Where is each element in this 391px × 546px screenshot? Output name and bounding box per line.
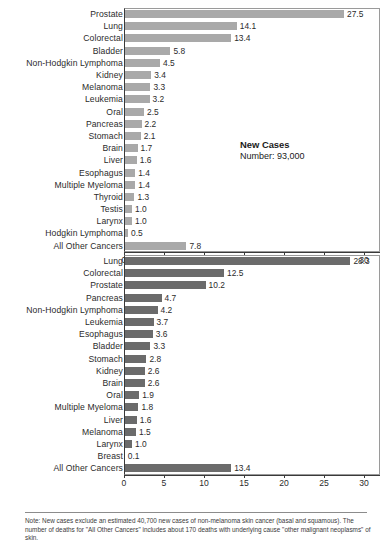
bar-category-label: All Other Cancers (53, 241, 123, 250)
bar-value-label: 2.8 (149, 354, 161, 362)
bar-row: Prostate10.2 (0, 279, 391, 291)
bar-category-label: Melanoma (82, 83, 123, 92)
bar-rows-new-cases: Prostate27.5Lung14.1Colorectal13.4Bladde… (0, 8, 391, 252)
bar-value-label: 1.9 (142, 391, 154, 399)
bar-row: Oral1.9 (0, 389, 391, 401)
bar-track: 28.3 (124, 255, 380, 267)
bar-category-label: Non-Hodgkin Lymphoma (26, 59, 123, 68)
bar (124, 330, 153, 338)
bar-category-label: Brain (102, 144, 123, 153)
bar (124, 34, 231, 42)
bar-value-label: 3.3 (153, 342, 165, 350)
bar (124, 95, 150, 103)
bar-value-label: 1.0 (135, 440, 147, 448)
bar-category-label: Kidney (96, 366, 123, 375)
bar-category-label: Multiple Myeloma (55, 403, 123, 412)
annotation-new-cases: New Cases Number: 93,000 (240, 139, 305, 162)
bar-track: 2.8 (124, 353, 380, 365)
x-axis-line (124, 252, 380, 253)
bar (124, 342, 150, 350)
bar-value-label: 1.4 (138, 181, 150, 189)
bar-category-label: Leukemia (85, 318, 123, 327)
bar-row: Colorectal12.5 (0, 267, 391, 279)
bar-value-label: 1.5 (139, 428, 151, 436)
bar-row: Prostate27.5 (0, 8, 391, 20)
bar-row: Larynx1.0 (0, 438, 391, 450)
bar-category-label: Colorectal (83, 269, 123, 278)
bar (124, 144, 138, 152)
bar-category-label: Lung (103, 257, 123, 266)
bar-track: 1.4 (124, 166, 380, 178)
bar (124, 269, 224, 277)
bar-category-label: Pancreas (86, 293, 123, 302)
bar (124, 242, 186, 250)
bar-track: 3.4 (124, 69, 380, 81)
bar (124, 391, 139, 399)
bar-value-label: 12.5 (227, 269, 243, 277)
bar (124, 440, 132, 448)
bar-track: 4.5 (124, 57, 380, 69)
bar-value-label: 14.1 (240, 22, 256, 30)
bar-category-label: Stomach (88, 354, 123, 363)
bar-row: Larynx1.0 (0, 215, 391, 227)
bar-value-label: 1.6 (140, 156, 152, 164)
bar-track: 12.5 (124, 267, 380, 279)
bar-track: 2.6 (124, 377, 380, 389)
bar-row: Leukemia3.2 (0, 93, 391, 105)
bar-row: Brain1.7 (0, 142, 391, 154)
bar-track: 13.4 (124, 32, 380, 44)
bar-row: Brain2.6 (0, 377, 391, 389)
bar (124, 181, 135, 189)
bar-value-label: 3.2 (153, 95, 165, 103)
bar-row: Esophagus3.6 (0, 328, 391, 340)
bar-category-label: Breast (98, 452, 123, 461)
bar-row: Pancreas2.2 (0, 118, 391, 130)
bar-track: 1.4 (124, 179, 380, 191)
bar-row: Pancreas4.7 (0, 292, 391, 304)
bar-category-label: Bladder (93, 342, 123, 351)
bar-row: Stomach2.8 (0, 353, 391, 365)
bar-track: 1.5 (124, 426, 380, 438)
bar-row: Colorectal13.4 (0, 32, 391, 44)
bar-category-label: Liver (104, 415, 123, 424)
bar-value-label: 1.4 (138, 168, 150, 176)
bar-category-label: Oral (106, 391, 123, 400)
bar-category-label: Thyroid (94, 193, 123, 202)
bar-track: 13.4 (124, 462, 380, 474)
x-axis-tick-label: 30 (359, 479, 369, 488)
bar-row: Non-Hodgkin Lymphoma4.2 (0, 304, 391, 316)
bar-track: 0.5 (124, 227, 380, 239)
bar (124, 416, 137, 424)
bar-track: 5.8 (124, 45, 380, 57)
bar-track: 10.2 (124, 279, 380, 291)
bar-track: 1.6 (124, 413, 380, 425)
bar-value-label: 1.0 (135, 205, 147, 213)
bar (124, 379, 145, 387)
bar-value-label: 3.6 (156, 330, 168, 338)
x-axis-tick-label: 10 (199, 479, 209, 488)
bar-category-label: Testis (100, 205, 123, 214)
bar-row: Hodgkin Lymphoma0.5 (0, 227, 391, 239)
bar-row: All Other Cancers7.8 (0, 240, 391, 252)
bar-category-label: Bladder (93, 46, 123, 55)
bar-value-label: 3.7 (157, 318, 169, 326)
bar-category-label: Hodgkin Lymphoma (45, 229, 123, 238)
bar (124, 281, 206, 289)
bar-track: 4.7 (124, 292, 380, 304)
x-axis-tick-label: 5 (162, 479, 167, 488)
annotation-subtitle: Number: 93,000 (240, 151, 305, 163)
bar (124, 83, 150, 91)
bar-category-label: Larynx (97, 440, 123, 449)
bar-track: 1.0 (124, 203, 380, 215)
annotation-title: New Cases (240, 139, 305, 151)
bar-value-label: 2.6 (148, 379, 160, 387)
bar-value-label: 1.6 (140, 415, 152, 423)
bar (124, 229, 128, 237)
bar (124, 294, 162, 302)
bar-category-label: Larynx (97, 217, 123, 226)
bar (124, 47, 170, 55)
bar-row: Melanoma3.3 (0, 81, 391, 93)
bar (124, 452, 125, 460)
bar-value-label: 4.2 (161, 306, 173, 314)
bar-category-label: Oral (106, 107, 123, 116)
